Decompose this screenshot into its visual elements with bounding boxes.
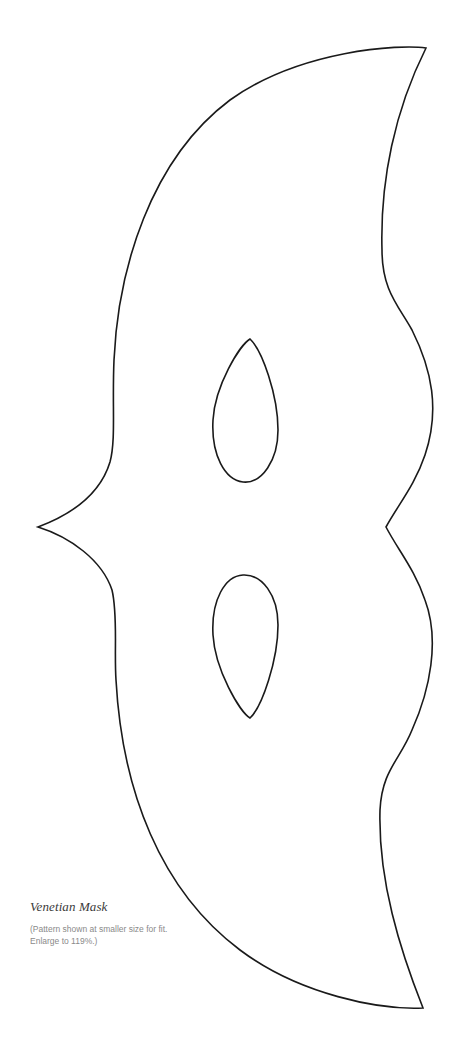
caption-note-line-2: Enlarge to 119%.) bbox=[30, 936, 97, 946]
eye-hole-top bbox=[213, 339, 278, 482]
mask-outline bbox=[38, 47, 433, 1008]
mask-pattern-drawing bbox=[0, 0, 463, 1037]
caption-note-line-1: (Pattern shown at smaller size for fit. bbox=[30, 924, 167, 934]
pattern-page: Venetian Mask (Pattern shown at smaller … bbox=[0, 0, 463, 1037]
pattern-caption: Venetian Mask (Pattern shown at smaller … bbox=[30, 899, 250, 947]
eye-hole-bottom bbox=[213, 575, 278, 718]
caption-note: (Pattern shown at smaller size for fit. … bbox=[30, 923, 250, 947]
caption-title: Venetian Mask bbox=[30, 899, 250, 915]
